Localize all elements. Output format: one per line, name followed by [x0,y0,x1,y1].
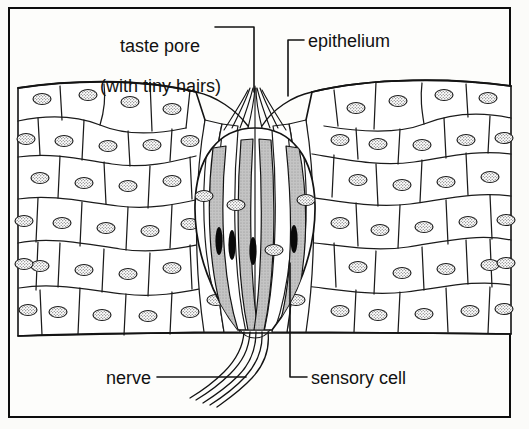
taste-bud-diagram-artwork [0,0,529,429]
artwork-ink [15,27,515,407]
label-sensory-cell: sensory cell [311,368,406,388]
label-taste-pore: taste pore (with tiny hairs) [100,16,221,136]
taste-pore [224,86,286,130]
label-taste-pore-line2: (with tiny hairs) [100,76,221,96]
leader-epithelium [288,40,304,96]
label-taste-pore-line1: taste pore [120,36,200,56]
label-epithelium: epithelium [308,31,390,51]
label-nerve: nerve [106,368,151,388]
diagram-page: taste pore (with tiny hairs) epithelium … [0,0,529,429]
nerve-fibres [190,332,268,407]
